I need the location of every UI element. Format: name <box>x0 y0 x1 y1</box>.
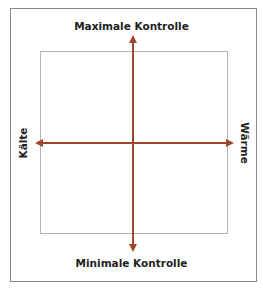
top-axis-label: Maximale Kontrolle <box>0 20 263 32</box>
left-axis-label: Kälte <box>17 128 29 159</box>
bottom-axis-label: Minimale Kontrolle <box>0 257 263 269</box>
axes <box>0 0 263 291</box>
right-axis-label: Wärme <box>239 122 251 164</box>
